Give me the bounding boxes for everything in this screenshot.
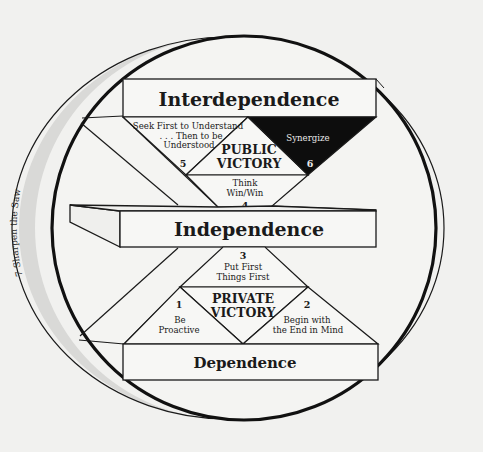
dependence-label: Dependence xyxy=(193,354,296,372)
habit-2-line-2: the End in Mind xyxy=(273,325,344,335)
habit-1-line-2: Proactive xyxy=(158,325,199,335)
independence-box: Independence xyxy=(70,205,376,247)
private-victory-line-2: VICTORY xyxy=(210,305,277,320)
dependence-box: Dependence xyxy=(123,344,378,380)
independence-label: Independence xyxy=(174,218,324,240)
habit-2-number: 2 xyxy=(304,299,311,310)
public-victory-line-1: PUBLIC xyxy=(221,142,277,157)
habit-5-number: 5 xyxy=(180,158,187,169)
interdependence-box: Interdependence xyxy=(123,79,384,117)
habit-5-line-1: Seek First to Understand xyxy=(133,121,244,131)
habit-1-number: 1 xyxy=(176,299,183,310)
habit-3-line-2: Things First xyxy=(217,272,270,282)
habit-1-line-1: Be xyxy=(174,315,185,325)
habit-4-line-2: Win/Win xyxy=(227,188,264,198)
habit-3-line-1: Put First xyxy=(224,262,263,272)
habit-3-number: 3 xyxy=(240,250,247,261)
private-victory-line-1: PRIVATE xyxy=(212,291,274,306)
interdependence-label: Interdependence xyxy=(159,88,340,110)
habit-6-number: 6 xyxy=(307,158,314,169)
habits-diagram: Interdependence Seek First to Understand… xyxy=(0,0,483,452)
habit-6-label: Synergize xyxy=(286,133,329,143)
habit-2-line-1: Begin with xyxy=(283,315,330,325)
public-victory-line-2: VICTORY xyxy=(216,156,283,171)
habit-5-line-3: Understood xyxy=(163,140,215,150)
habit-4-line-1: Think xyxy=(233,178,259,188)
